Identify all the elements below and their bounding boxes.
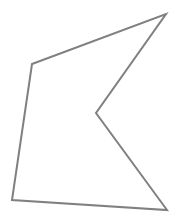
polygon-figure bbox=[0, 0, 182, 216]
canvas-background bbox=[0, 0, 182, 216]
figure-canvas bbox=[0, 0, 182, 216]
